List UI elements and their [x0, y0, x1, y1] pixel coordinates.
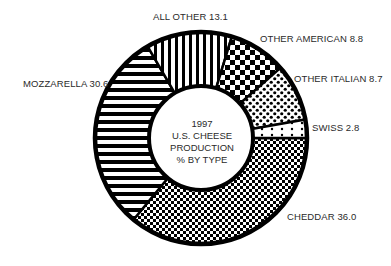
center-title-line-3: PRODUCTION — [152, 142, 252, 154]
label-swiss: SWISS 2.8 — [312, 122, 359, 133]
label-all-other: ALL OTHER 13.1 — [153, 11, 228, 22]
label-other-american: OTHER AMERICAN 8.8 — [260, 33, 363, 44]
center-title-line-2: U.S. CHEESE — [152, 130, 252, 142]
center-title-line-4: % BY TYPE — [152, 154, 252, 166]
label-other-italian: OTHER ITALIAN 8.7 — [294, 73, 383, 84]
label-mozzarella: MOZZARELLA 30.6 — [23, 78, 108, 89]
center-title-line-1: 1997 — [152, 118, 252, 130]
label-cheddar: CHEDDAR 36.0 — [287, 211, 356, 222]
center-title: 1997 U.S. CHEESE PRODUCTION % BY TYPE — [152, 118, 252, 166]
